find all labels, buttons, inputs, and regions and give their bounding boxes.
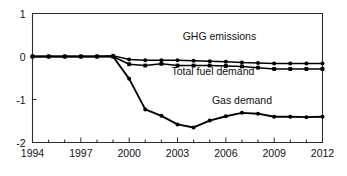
data-point (272, 67, 276, 71)
data-point (192, 125, 196, 129)
data-point (288, 67, 292, 71)
x-tick-label-2003: 2003 (166, 147, 190, 159)
data-point (176, 122, 180, 126)
data-point (176, 58, 180, 62)
y-tick-label-0: 0 (20, 51, 26, 63)
data-point (321, 67, 325, 71)
data-point (127, 62, 131, 66)
data-point (321, 115, 325, 119)
data-point (224, 114, 228, 118)
data-point (224, 60, 228, 64)
data-point (288, 61, 292, 65)
y-tick-label-1: 1 (20, 8, 26, 20)
data-point (192, 59, 196, 63)
data-point (47, 55, 51, 59)
chart-figure: 1994199720002003200620092012 10-1-2 GHG … (0, 0, 347, 176)
x-tick-label-2012: 2012 (311, 147, 335, 159)
data-point (288, 115, 292, 119)
data-point (256, 66, 260, 70)
data-point (111, 55, 115, 59)
y-axis-ticks (33, 14, 37, 143)
data-point (208, 119, 212, 123)
x-tick-label-2009: 2009 (262, 147, 286, 159)
data-point (272, 115, 276, 119)
series-label-total-fuel-demand: Total fuel demand (171, 65, 254, 77)
data-point (272, 61, 276, 65)
y-axis-tick-labels: 10-1-2 (16, 8, 26, 149)
data-point (143, 58, 147, 62)
data-point (304, 115, 308, 119)
x-tick-label-2006: 2006 (214, 147, 238, 159)
data-point (208, 59, 212, 63)
data-point (256, 61, 260, 65)
data-point (143, 64, 147, 68)
series-label-gas-demand: Gas demand (212, 94, 272, 106)
series-label-ghg-emissions: GHG emissions (183, 30, 257, 42)
y-tick-label-minus1: -1 (16, 94, 25, 106)
data-point (79, 55, 83, 59)
y-tick-label-minus2: -2 (16, 137, 25, 149)
data-point (159, 58, 163, 62)
data-point (63, 55, 67, 59)
x-tick-label-1997: 1997 (69, 147, 93, 159)
data-point (31, 55, 35, 59)
data-point (127, 58, 131, 62)
data-point (304, 61, 308, 65)
x-axis-tick-labels: 1994199720002003200620092012 (21, 147, 335, 159)
x-tick-label-2000: 2000 (117, 147, 141, 159)
data-point (240, 111, 244, 115)
data-point (159, 114, 163, 118)
line-chart-canvas: 1994199720002003200620092012 10-1-2 GHG … (0, 0, 347, 176)
data-point (95, 55, 99, 59)
data-point (159, 62, 163, 66)
data-point (143, 107, 147, 111)
data-point (256, 112, 260, 116)
data-point (321, 61, 325, 65)
data-point (304, 67, 308, 71)
data-point (127, 77, 131, 81)
x-axis-ticks (33, 138, 323, 143)
